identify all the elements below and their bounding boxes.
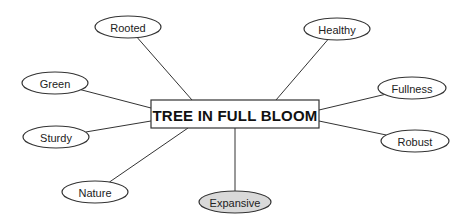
mind-map-canvas: TREE IN FULL BLOOM RootedHealthyGreenFul… (0, 0, 474, 223)
label-nature: Nature (78, 187, 111, 199)
node-robust: Robust (381, 130, 449, 152)
node-green: Green (22, 72, 88, 94)
label-robust: Robust (398, 136, 433, 148)
label-rooted: Rooted (110, 22, 145, 34)
connector-green (81, 90, 151, 108)
node-sturdy: Sturdy (23, 126, 89, 148)
label-green: Green (40, 78, 71, 90)
connector-fullness (319, 94, 385, 110)
label-fullness: Fullness (392, 83, 433, 95)
node-fullness: Fullness (378, 77, 446, 99)
center-label: TREE IN FULL BLOOM (153, 107, 318, 124)
label-expansive: Expansive (210, 197, 261, 209)
node-nature: Nature (62, 181, 128, 203)
label-healthy: Healthy (318, 24, 356, 36)
connector-nature (109, 128, 188, 182)
node-rooted: Rooted (95, 16, 161, 38)
connector-robust (319, 121, 386, 135)
connector-healthy (276, 40, 328, 100)
connector-rooted (137, 38, 192, 100)
connector-sturdy (85, 121, 151, 132)
center-node: TREE IN FULL BLOOM (151, 100, 319, 128)
node-healthy: Healthy (304, 18, 370, 40)
label-sturdy: Sturdy (40, 132, 72, 144)
node-expansive: Expansive (199, 191, 271, 213)
